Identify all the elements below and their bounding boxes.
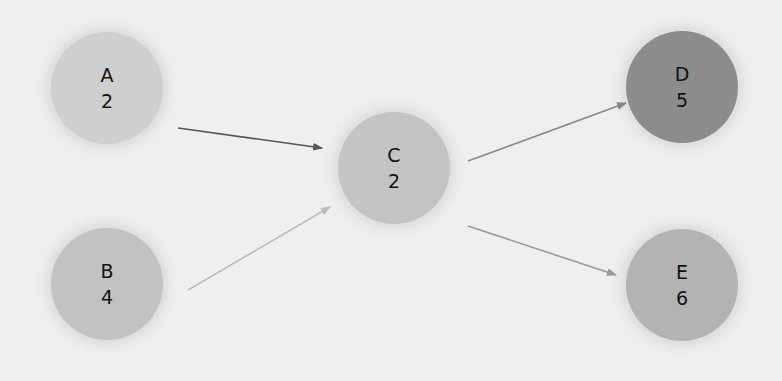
node-a-label: A [101,62,114,88]
node-a-value: 2 [101,88,113,114]
node-c-label: C [387,142,400,168]
node-e-value: 6 [676,285,688,311]
node-d-value: 5 [676,87,688,113]
node-c[interactable]: C 2 [338,112,450,224]
diagram-canvas: A 2 B 4 C 2 D 5 E 6 [0,0,782,381]
node-a[interactable]: A 2 [51,32,163,144]
edge-b-to-c-arrow [188,207,330,290]
node-b-value: 4 [101,284,113,310]
node-b[interactable]: B 4 [51,228,163,340]
node-d[interactable]: D 5 [626,31,738,143]
edge-c-to-d-arrow [468,103,626,161]
node-e[interactable]: E 6 [626,229,738,341]
node-b-label: B [100,258,113,284]
edge-c-to-e-arrow [468,226,616,275]
node-d-label: D [675,61,690,87]
edge-a-to-c-arrow [178,128,322,148]
node-e-label: E [676,259,688,285]
node-c-value: 2 [388,168,400,194]
